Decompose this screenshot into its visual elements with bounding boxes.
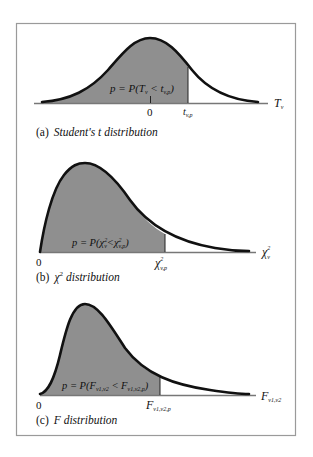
f-cutoff-label: Fv1,v2,p — [145, 398, 171, 412]
t-cutoff-label: tv,p — [183, 106, 193, 118]
t-zero-label: 0 — [147, 106, 153, 118]
f-axis-label: Fv1,v2 — [260, 389, 281, 403]
chi-square-cutoff-label: χ2v,p — [154, 256, 167, 271]
f-zero-label: 0 — [36, 399, 42, 411]
distribution-figure: p = P(Tv < tv,p) 0 tv,p Tv (a)Student's … — [0, 0, 313, 457]
panel-f-distribution: p = P(Fv1,v2 < Fv1,v2,p) 0 Fv1,v2,p Fv1,… — [36, 304, 281, 427]
t-caption: (a)Student's t distribution — [36, 126, 158, 139]
chi-square-area-label: p = P(χ2v<χ2v,p) — [71, 237, 129, 249]
panel-chi-square-distribution: p = P(χ2v<χ2v,p) 0 χ2v,p χ2v (b)χ2distri… — [36, 163, 270, 284]
f-caption: (c)F distribution — [36, 414, 118, 427]
t-axis-label: Tv — [274, 96, 284, 110]
f-shaded-area — [40, 304, 160, 395]
chi-square-axis-label: χ2v — [261, 245, 270, 260]
chi-square-zero-label: 0 — [36, 256, 42, 268]
chi-square-caption: (b)χ2distribution — [36, 270, 120, 284]
panel-t-distribution: p = P(Tv < tv,p) 0 tv,p Tv (a)Student's … — [34, 38, 284, 139]
